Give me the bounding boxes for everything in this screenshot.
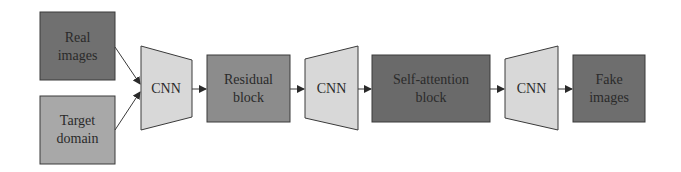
node-self-attention-block: Self-attention block xyxy=(372,55,490,122)
node-fake-images: Fake images xyxy=(573,55,645,122)
node-self-attention-block-line2: block xyxy=(415,90,446,105)
node-fake-images-line2: images xyxy=(589,90,629,105)
node-target-domain: Target domain xyxy=(40,96,115,164)
node-cnn-2-label: CNN xyxy=(317,81,347,96)
node-residual-block-line1: Residual xyxy=(224,72,273,87)
node-self-attention-block-line1: Self-attention xyxy=(393,72,469,87)
node-real-images-line2: images xyxy=(58,48,98,63)
node-fake-images-line1: Fake xyxy=(595,72,622,87)
edge-real-to-cnn1 xyxy=(115,47,140,84)
node-cnn-1: CNN xyxy=(141,46,192,130)
node-real-images: Real images xyxy=(40,12,115,80)
node-residual-block-line2: block xyxy=(233,90,264,105)
node-real-images-line1: Real xyxy=(65,30,91,45)
node-cnn-3: CNN xyxy=(505,46,558,130)
node-residual-block: Residual block xyxy=(207,55,290,122)
architecture-diagram: Real images Target domain CNN Residual b… xyxy=(0,0,681,172)
node-cnn-1-label: CNN xyxy=(151,81,181,96)
node-cnn-2: CNN xyxy=(305,46,358,130)
node-cnn-3-label: CNN xyxy=(517,81,547,96)
node-target-domain-line1: Target xyxy=(60,113,95,128)
edge-target-to-cnn1 xyxy=(115,92,140,130)
node-target-domain-line2: domain xyxy=(57,131,99,146)
